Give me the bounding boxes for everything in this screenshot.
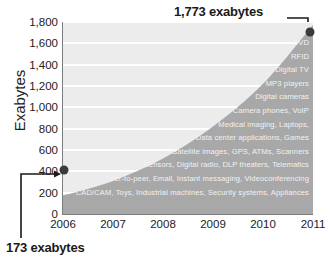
inline-series-labels: DVDRFIDDigital TVMP3 playersDigital came… — [63, 22, 313, 214]
x-axis-line — [63, 214, 313, 215]
x-tick-2007: 2007 — [100, 218, 126, 230]
series-label-7: Data center applications, Games — [196, 133, 309, 142]
x-tick-2006: 2006 — [50, 218, 76, 230]
x-tick-2010: 2010 — [250, 218, 276, 230]
series-label-2: Digital TV — [275, 65, 309, 74]
y-tick-200: 200 — [39, 187, 58, 199]
data-point-2011 — [306, 28, 315, 37]
series-label-4: Digital cameras — [255, 92, 309, 101]
annotation-bottom-value: 173 exabytes — [6, 240, 85, 255]
y-tick-600: 600 — [39, 144, 58, 156]
x-tick-2009: 2009 — [200, 218, 226, 230]
chart-figure: 1,773 exabytes 173 exabytes Exabytes 020… — [0, 0, 331, 265]
y-tick-800: 800 — [39, 123, 58, 135]
series-label-5: Camera phones, VoIP — [233, 106, 309, 115]
x-tick-2011: 2011 — [301, 218, 326, 230]
y-tick-1800: 1,800 — [29, 16, 58, 28]
series-label-11: CAD/CAM, Toys, Industrial machines, Secu… — [76, 187, 309, 196]
series-label-6: Medical imaging, Laptops, — [218, 119, 309, 128]
series-label-8: Satellite images, GPS, ATMs, Scanners — [172, 146, 309, 155]
y-tick-1000: 1,000 — [29, 101, 58, 113]
y-tick-1400: 1,400 — [29, 59, 58, 71]
y-tick-1200: 1,200 — [29, 80, 58, 92]
y-axis-tick-labels: 02004006008001,0001,2001,4001,6001,800 — [14, 22, 58, 214]
series-label-0: DVD — [293, 38, 309, 47]
data-point-2006 — [60, 166, 69, 175]
y-tick-1600: 1,600 — [29, 37, 58, 49]
series-label-9: Sensors, Digital radio, DLP theaters, Te… — [144, 160, 309, 169]
annotation-top-value: 1,773 exabytes — [174, 4, 263, 19]
y-tick-400: 400 — [39, 165, 58, 177]
series-label-10: Peer-to-peer, Email, Instant messaging, … — [105, 174, 309, 183]
x-axis-tick-labels: 200620072008200920102011 — [63, 218, 313, 236]
series-label-3: MP3 players — [266, 78, 309, 87]
plot-area: DVDRFIDDigital TVMP3 playersDigital came… — [63, 22, 313, 214]
x-tick-2008: 2008 — [150, 218, 176, 230]
series-label-1: RFID — [291, 51, 309, 60]
